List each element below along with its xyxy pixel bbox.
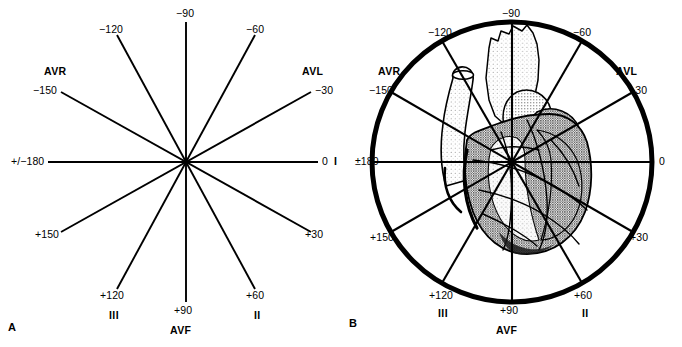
degree-label-neg120: −120 xyxy=(428,27,452,38)
lead-label-two: II xyxy=(582,308,589,319)
lead-label-two: II xyxy=(254,310,261,321)
panel-a: −90 −120 −60 AVR −150 AVL −30 +/−180 0 I… xyxy=(0,0,341,347)
degree-label-pos150: +150 xyxy=(370,232,394,243)
degree-label-neg90: −90 xyxy=(502,8,520,19)
panel-a-axes-svg xyxy=(0,0,341,347)
degree-label-pos120: +120 xyxy=(100,290,124,301)
lead-label-three: III xyxy=(438,308,448,319)
degree-label-pos90: +90 xyxy=(500,305,518,316)
degree-label-neg60: −60 xyxy=(246,24,264,35)
degree-label-180: +/−180 xyxy=(11,156,44,167)
degree-label-neg150: −150 xyxy=(33,85,57,96)
lead-label-avr: AVR xyxy=(378,66,401,77)
degree-label-zero: 0 xyxy=(322,156,328,167)
degree-label-neg90: −90 xyxy=(176,8,194,19)
lead-label-avl: AVL xyxy=(616,66,637,77)
heart-illustration xyxy=(441,25,591,255)
degree-label-180: ±180 xyxy=(355,156,379,167)
panel-b-axes-svg xyxy=(341,0,682,347)
panel-letter-b: B xyxy=(349,318,357,329)
lead-label-avf: AVF xyxy=(170,325,191,336)
degree-label-pos90: +90 xyxy=(174,305,192,316)
degree-label-neg30: −30 xyxy=(629,85,647,96)
degree-label-zero: 0 xyxy=(659,156,665,167)
figure-hexaxial-reference-system: −90 −120 −60 AVR −150 AVL −30 +/−180 0 I… xyxy=(0,0,682,347)
lead-label-avf: AVF xyxy=(496,325,517,336)
lead-label-one: I xyxy=(334,156,337,167)
degree-label-neg120: −120 xyxy=(99,24,123,35)
degree-label-pos60: +60 xyxy=(574,290,592,301)
degree-label-pos60: +60 xyxy=(246,290,264,301)
degree-label-neg30: −30 xyxy=(315,85,333,96)
panel-b: −90 −120 −60 AVR −150 AVL −30 ±180 0 +15… xyxy=(341,0,682,347)
degree-label-pos150: +150 xyxy=(35,229,59,240)
degree-label-pos30: +30 xyxy=(630,232,648,243)
lead-label-avr: AVR xyxy=(44,66,67,77)
lead-label-three: III xyxy=(109,310,119,321)
degree-label-pos30: +30 xyxy=(305,229,323,240)
lead-label-avl: AVL xyxy=(302,66,323,77)
degree-label-pos120: +120 xyxy=(429,290,453,301)
degree-label-neg60: −60 xyxy=(573,27,591,38)
degree-label-neg150: −150 xyxy=(369,85,393,96)
panel-letter-a: A xyxy=(8,322,16,333)
